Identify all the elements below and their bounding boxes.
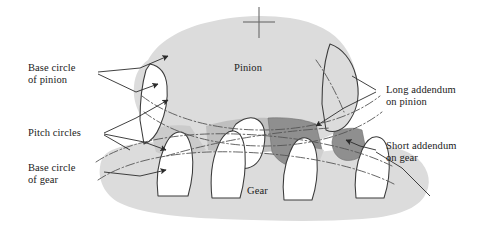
diagram-canvas xyxy=(0,0,488,233)
gear-mesh-diagram: Base circleof pinion Pitch circles Base … xyxy=(0,0,488,233)
callout-base-circle-of-pinion: Base circleof pinion xyxy=(28,62,75,85)
callout-short-addendum-on-gear: Short addendumon gear xyxy=(386,140,457,163)
gear-body-label: Gear xyxy=(247,185,268,197)
callout-base-circle-of-gear: Base circleof gear xyxy=(28,162,75,185)
callout-pitch-circles: Pitch circles xyxy=(28,127,81,139)
callout-long-addendum-on-pinion: Long addendumon pinion xyxy=(386,84,456,107)
pinion-body-label: Pinion xyxy=(234,62,262,74)
leader-pitch-circles-stem xyxy=(104,135,130,150)
